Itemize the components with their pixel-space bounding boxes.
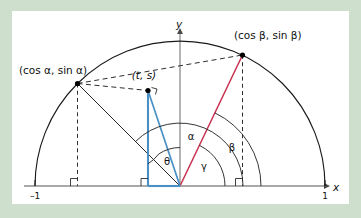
label-axis-y: y — [175, 18, 183, 30]
dashed-chord-alpha-beta — [78, 55, 243, 84]
right-angle-marker-beta-foot — [236, 179, 243, 187]
label-point-ts: (t, s) — [132, 69, 156, 81]
unit-semicircle-diagram: (cos α, sin α) (cos β, sin β) (t, s) x y… — [12, 11, 349, 204]
label-angle-theta: θ — [164, 156, 170, 167]
label-angle-gamma: γ — [201, 161, 207, 172]
label-angle-beta: β — [229, 142, 235, 153]
dashed-chord-alpha-ts — [78, 84, 149, 91]
radius-to-ts-point — [148, 91, 180, 187]
figure-panel: (cos α, sin α) (cos β, sin β) (t, s) x y… — [12, 11, 349, 204]
label-point-beta: (cos β, sin β) — [234, 29, 302, 41]
label-tick-minus-one: –1 — [30, 191, 40, 201]
right-angle-marker-alpha-foot — [71, 179, 78, 187]
point-cos-alpha-sin-alpha — [75, 81, 80, 86]
radius-to-alpha-point — [78, 84, 181, 187]
radius-to-beta-point — [180, 55, 243, 186]
angle-arc-beta — [215, 113, 261, 186]
right-angle-marker-ts-point — [152, 88, 158, 95]
label-axis-x: x — [332, 181, 340, 193]
label-point-alpha: (cos α, sin α) — [19, 64, 87, 76]
label-angle-alpha: α — [188, 131, 195, 142]
point-t-s — [145, 88, 150, 93]
figure-outer-frame: (cos α, sin α) (cos β, sin β) (t, s) x y… — [0, 0, 361, 218]
label-tick-one: 1 — [322, 191, 328, 201]
point-cos-beta-sin-beta — [240, 52, 245, 57]
